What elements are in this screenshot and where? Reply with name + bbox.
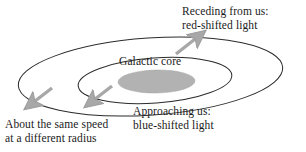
label-galactic-core-line1: Galactic core [119, 55, 181, 69]
label-galactic-core: Galactic core [119, 55, 181, 69]
label-approaching-line1: Approaching us: [133, 105, 214, 119]
galactic-core-ellipse [118, 69, 195, 93]
galaxy-rotation-diagram: Receding from us: red-shifted light Gala… [0, 0, 306, 152]
arrow-approaching-inner-icon [86, 86, 112, 106]
label-receding-line1: Receding from us: [182, 5, 269, 19]
label-same-speed: About the same speed at a different radi… [5, 118, 108, 145]
label-approaching: Approaching us: blue-shifted light [133, 105, 214, 132]
label-receding-line2: red-shifted light [182, 19, 269, 33]
label-same-speed-line2: at a different radius [5, 132, 108, 146]
label-same-speed-line1: About the same speed [5, 118, 108, 132]
label-approaching-line2: blue-shifted light [133, 119, 214, 133]
label-receding: Receding from us: red-shifted light [182, 5, 269, 32]
arrow-receding-outer-icon [176, 32, 204, 54]
arrow-same-speed-outer-icon [26, 88, 52, 108]
